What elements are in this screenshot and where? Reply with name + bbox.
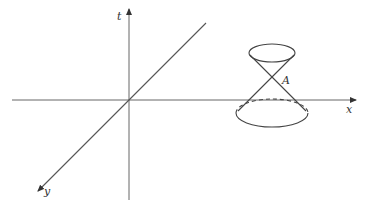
diagonal-line: [129, 23, 206, 100]
y-axis-label: y: [43, 185, 51, 198]
past-cone-ellipse-front: [236, 113, 308, 127]
past-cone-ellipse-back: [236, 99, 308, 113]
x-axis-label: x: [346, 103, 353, 116]
light-cone: [236, 44, 308, 127]
spacetime-diagram: t x y A: [0, 0, 366, 211]
point-a-label: A: [281, 74, 290, 87]
future-cone-ellipse: [249, 44, 295, 62]
y-axis: [38, 100, 129, 191]
t-axis-label: t: [117, 10, 122, 23]
